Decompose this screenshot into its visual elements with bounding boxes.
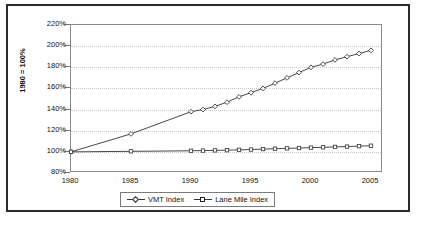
x-tick-label: 1990 <box>165 176 215 185</box>
data-point-marker <box>213 149 216 152</box>
series-layer <box>71 25 383 173</box>
series-line <box>71 146 371 152</box>
data-point-marker <box>285 75 290 80</box>
data-point-marker <box>357 51 362 56</box>
data-point-marker <box>333 145 336 148</box>
legend: VMT Index Lane Mile Index <box>120 192 275 207</box>
y-tick-label: 160% <box>14 83 66 91</box>
x-tick-label: 1995 <box>225 176 275 185</box>
legend-item-lane-mile-index: Lane Mile Index <box>194 195 268 204</box>
data-point-marker <box>345 54 350 59</box>
data-point-marker <box>189 109 194 114</box>
data-point-marker <box>369 48 374 53</box>
data-point-marker <box>309 146 312 149</box>
data-point-marker <box>225 148 228 151</box>
data-point-marker <box>225 100 230 105</box>
data-point-marker <box>237 94 242 99</box>
y-tick-label: 120% <box>14 126 66 134</box>
data-point-marker <box>273 81 278 86</box>
data-point-marker <box>201 149 204 152</box>
plot-area <box>70 24 382 172</box>
y-tick-label: 80% <box>14 168 66 176</box>
x-tick-label: 1985 <box>105 176 155 185</box>
y-tick-mark <box>64 172 70 173</box>
data-point-marker <box>261 86 266 91</box>
data-point-marker <box>285 147 288 150</box>
data-point-marker <box>201 107 206 112</box>
legend-label: Lane Mile Index <box>215 195 268 204</box>
series-line <box>71 50 371 151</box>
y-tick-label: 180% <box>14 62 66 70</box>
data-point-marker <box>297 70 302 75</box>
data-point-marker <box>345 145 348 148</box>
y-tick-label: 100% <box>14 147 66 155</box>
legend-line-diamond-icon <box>127 196 145 203</box>
data-point-marker <box>273 147 276 150</box>
data-point-marker <box>129 150 132 153</box>
data-point-marker <box>237 148 240 151</box>
legend-label: VMT Index <box>148 195 184 204</box>
data-point-marker <box>69 150 72 153</box>
data-point-marker <box>297 146 300 149</box>
data-point-marker <box>357 144 360 147</box>
y-tick-label: 220% <box>14 20 66 28</box>
y-tick-label: 200% <box>14 41 66 49</box>
legend-line-square-icon <box>194 196 212 203</box>
legend-item-vmt-index: VMT Index <box>127 195 184 204</box>
data-point-marker <box>249 148 252 151</box>
data-point-marker <box>189 149 192 152</box>
x-tick-label: 1980 <box>45 176 95 185</box>
data-point-marker <box>249 90 254 95</box>
data-point-marker <box>213 104 218 109</box>
line-chart: 1980 = 100% 80%100%120%140%160%180%200%2… <box>8 6 412 214</box>
data-point-marker <box>261 147 264 150</box>
data-point-marker <box>321 62 326 67</box>
data-point-marker <box>321 146 324 149</box>
data-point-marker <box>369 144 372 147</box>
x-tick-label: 2000 <box>285 176 335 185</box>
data-point-marker <box>309 65 314 70</box>
chart-frame: 1980 = 100% 80%100%120%140%160%180%200%2… <box>6 4 410 212</box>
data-point-marker <box>333 57 338 62</box>
y-tick-label: 140% <box>14 105 66 113</box>
x-tick-label: 2005 <box>345 176 395 185</box>
data-point-marker <box>129 131 134 136</box>
